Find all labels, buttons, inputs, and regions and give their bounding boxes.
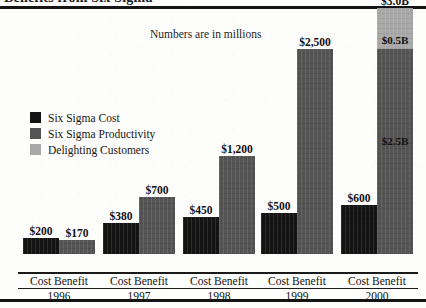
bar-segment-productivity <box>297 49 333 254</box>
bar-label-benefit-total-1998: $1,200 <box>221 143 253 155</box>
x-axis-label-1996: Cost Benefit1996 <box>18 275 100 302</box>
bar-benefit-2000[interactable]: $0.5B$2.5B$3.0B <box>377 8 413 254</box>
footer-rule <box>0 299 426 302</box>
x-axis-label-1997: Cost Benefit1997 <box>98 275 180 302</box>
bar-benefit-1996[interactable]: $170 <box>59 240 95 254</box>
bar-label-delighting-customers-2000: $0.5B <box>382 34 409 46</box>
chart-page: Benefits from Six Sigma Numbers are in m… <box>0 0 426 308</box>
bar-label-cost-1998: $450 <box>190 204 213 216</box>
bar-segment-cost <box>103 223 139 254</box>
bar-benefit-1999[interactable]: $2,500 <box>297 49 333 254</box>
bar-segment-productivity <box>59 240 95 254</box>
x-axis-baseline <box>18 272 418 274</box>
bar-group-1998: $450$1,200 <box>178 34 260 254</box>
x-axis-label-1999: Cost Benefit1999 <box>256 275 338 302</box>
bar-benefit-1997[interactable]: $700 <box>139 197 175 254</box>
bar-label-productivity-2000: $2.5B <box>382 135 409 147</box>
bar-label-benefit-total-2000: $3.0B <box>381 0 409 7</box>
bars-2000: $600$0.5B$2.5B$3.0B <box>336 34 418 254</box>
bar-cost-1996[interactable]: $200 <box>23 238 59 254</box>
bar-label-cost-1999: $500 <box>268 200 291 212</box>
x-axis-label-1998: Cost Benefit1998 <box>178 275 260 302</box>
bar-segment-productivity: $2.5B <box>377 49 413 254</box>
bar-group-1996: $200$170 <box>18 34 100 254</box>
bar-segment-cost <box>341 205 377 254</box>
bar-cost-2000[interactable]: $600 <box>341 205 377 254</box>
x-axis-cost-benefit-1998: Cost Benefit <box>178 275 260 289</box>
x-axis-cost-benefit-1999: Cost Benefit <box>256 275 338 289</box>
bar-segment-delighting-customers: $0.5B <box>377 8 413 49</box>
bar-label-cost-1997: $380 <box>110 210 133 222</box>
bars-1997: $380$700 <box>98 34 180 254</box>
bars-1998: $450$1,200 <box>178 34 260 254</box>
bars-1996: $200$170 <box>18 34 100 254</box>
bar-segment-productivity <box>139 197 175 254</box>
bars-1999: $500$2,500 <box>256 34 338 254</box>
bar-group-2000: $600$0.5B$2.5B$3.0B <box>336 34 418 254</box>
bar-label-benefit-total-1996: $170 <box>66 227 89 239</box>
bar-label-cost-1996: $200 <box>30 225 53 237</box>
bar-segment-cost <box>23 238 59 254</box>
bar-group-1997: $380$700 <box>98 34 180 254</box>
bar-label-cost-2000: $600 <box>348 192 371 204</box>
bar-label-benefit-total-1999: $2,500 <box>299 36 331 48</box>
x-axis-label-2000: Cost Benefit2000 <box>336 275 418 302</box>
bar-benefit-1998[interactable]: $1,200 <box>219 156 255 254</box>
bar-cost-1999[interactable]: $500 <box>261 213 297 254</box>
bar-label-benefit-total-1997: $700 <box>146 184 169 196</box>
x-axis-cost-benefit-2000: Cost Benefit <box>336 275 418 289</box>
x-axis-cost-benefit-1997: Cost Benefit <box>98 275 180 289</box>
plot-area: $200$170$380$700$450$1,200$500$2,500$600… <box>0 9 426 299</box>
bar-cost-1998[interactable]: $450 <box>183 217 219 254</box>
bar-segment-productivity <box>219 156 255 254</box>
bar-segment-cost <box>183 217 219 254</box>
x-axis-cost-benefit-1996: Cost Benefit <box>18 275 100 289</box>
bar-cost-1997[interactable]: $380 <box>103 223 139 254</box>
bar-group-1999: $500$2,500 <box>256 34 338 254</box>
bar-segment-cost <box>261 213 297 254</box>
